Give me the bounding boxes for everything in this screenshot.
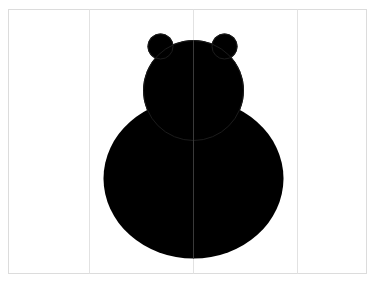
- drawing-canvas: [0, 0, 376, 299]
